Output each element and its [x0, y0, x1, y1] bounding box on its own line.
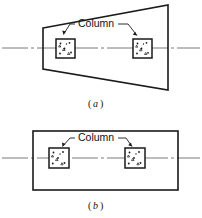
svg-text:): ) — [100, 200, 103, 212]
panel-b-leader-left — [62, 138, 75, 147]
figure-canvas: Column ( a ) — [0, 0, 202, 218]
svg-text:): ) — [100, 98, 103, 110]
panel-b-leader-right — [118, 138, 132, 147]
panel-a-leader-left — [62, 24, 75, 35]
panel-a-right-column — [133, 39, 152, 58]
panel-a-left-column — [56, 39, 75, 58]
panel-b-column-label: Column — [78, 131, 114, 143]
svg-text:(: ( — [88, 200, 92, 212]
panel-b-right-column — [125, 148, 145, 168]
panel-a-leader-right — [118, 24, 137, 36]
svg-text:(: ( — [88, 98, 92, 110]
panel-a-column-label: Column — [78, 17, 114, 29]
svg-text:a: a — [93, 98, 98, 109]
panel-b-subcaption: ( b ) — [88, 200, 103, 212]
svg-text:b: b — [93, 200, 98, 211]
panel-b-left-column — [49, 148, 69, 168]
panel-a: Column ( a ) — [2, 5, 200, 110]
panel-a-subcaption: ( a ) — [88, 98, 103, 110]
panel-b: Column ( b ) — [2, 131, 200, 212]
engineering-figure: Column ( a ) — [0, 0, 202, 218]
